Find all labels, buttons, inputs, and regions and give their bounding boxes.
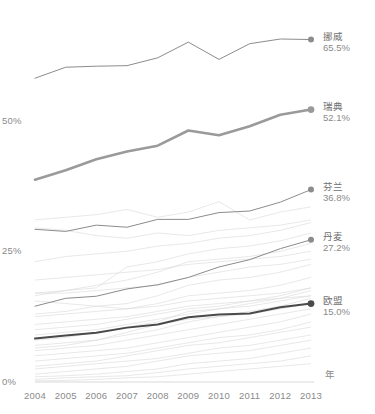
series-label-芬兰[interactable]: 芬兰36.8% <box>323 181 350 204</box>
series-label-name: 挪威 <box>323 31 350 43</box>
series-label-欧盟[interactable]: 欧盟15.0% <box>323 295 350 318</box>
background-series-line <box>35 243 311 295</box>
x-tick-label: 2010 <box>203 390 235 401</box>
x-tick-label: 2012 <box>264 390 296 401</box>
series-label-name: 丹麦 <box>323 231 350 243</box>
x-tick-label: 2011 <box>234 390 266 401</box>
background-series-line <box>35 288 311 309</box>
background-series-line <box>35 296 311 340</box>
x-tick-label: 2006 <box>80 390 112 401</box>
background-series-line <box>35 264 311 314</box>
series-label-name: 欧盟 <box>323 295 350 307</box>
series-label-value: 27.2% <box>323 242 350 254</box>
series-label-value: 52.1% <box>323 112 350 124</box>
background-series-line <box>35 202 311 220</box>
background-series-line <box>35 233 311 293</box>
x-tick-label: 2008 <box>142 390 174 401</box>
series-end-dot-瑞典[interactable] <box>308 106 315 113</box>
series-line-瑞典[interactable] <box>35 110 311 180</box>
series-end-dot-欧盟[interactable] <box>308 300 315 307</box>
highlight-series-group <box>35 39 311 339</box>
x-tick-label: 2013 <box>295 390 327 401</box>
series-label-瑞典[interactable]: 瑞典52.1% <box>323 101 350 124</box>
y-tick-label: 25% <box>2 245 22 256</box>
background-series-line <box>35 356 311 380</box>
series-end-dot-丹麦[interactable] <box>308 237 314 243</box>
background-series-line <box>35 298 311 348</box>
series-label-value: 36.8% <box>323 192 350 204</box>
series-end-dots <box>308 37 315 307</box>
series-label-name: 芬兰 <box>323 181 350 193</box>
series-end-dot-芬兰[interactable] <box>308 187 314 193</box>
series-line-丹麦[interactable] <box>35 240 311 306</box>
background-series-line <box>35 259 311 293</box>
x-tick-label: 2005 <box>50 390 82 401</box>
background-series-line <box>35 309 311 351</box>
series-label-name: 瑞典 <box>323 101 350 113</box>
x-tick-label: 2007 <box>111 390 143 401</box>
x-tick-label: 2009 <box>172 390 204 401</box>
x-axis-title: 年 <box>325 367 335 381</box>
y-tick-label: 50% <box>2 115 22 126</box>
series-line-芬兰[interactable] <box>35 190 311 232</box>
background-series-group <box>35 202 311 381</box>
y-tick-label: 0% <box>2 376 16 387</box>
series-line-挪威[interactable] <box>35 39 311 78</box>
line-chart: 0%25%50% 2004200520062007200820092010201… <box>0 0 375 414</box>
series-end-dot-挪威[interactable] <box>308 37 314 43</box>
x-tick-label: 2004 <box>19 390 51 401</box>
series-label-丹麦[interactable]: 丹麦27.2% <box>323 231 350 254</box>
background-series-line <box>35 327 311 366</box>
background-series-line <box>35 223 311 262</box>
series-label-挪威[interactable]: 挪威65.5% <box>323 31 350 54</box>
series-label-value: 15.0% <box>323 306 350 318</box>
chart-canvas <box>0 0 375 414</box>
series-label-value: 65.5% <box>323 42 350 54</box>
